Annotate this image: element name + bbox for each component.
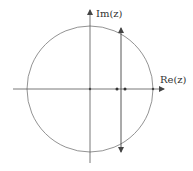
point-left-of-line [116,88,119,91]
imag-axis-label: Im(z) [96,8,123,19]
real-axis-label: Re(z) [160,74,187,85]
point-right-of-line [124,88,127,91]
origin-point [89,88,91,90]
point-on-circle [152,88,154,90]
complex-plane-diagram: Im(z) Re(z) [0,0,193,171]
